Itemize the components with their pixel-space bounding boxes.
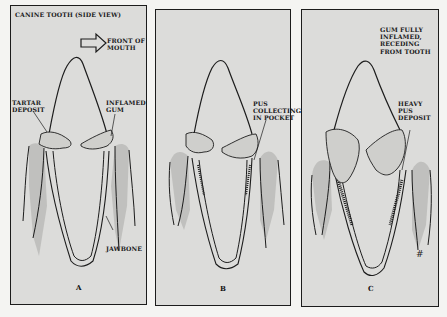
tooth-diagram-b bbox=[156, 10, 292, 307]
panel-c: # GUM FULLY INFLAMED, RECEDING FROM TOOT… bbox=[301, 9, 439, 307]
figure-title: CANINE TOOTH (SIDE VIEW) bbox=[15, 11, 121, 18]
jawbone-label: JAWBONE bbox=[106, 245, 142, 252]
panel-letter-a: A bbox=[76, 283, 81, 292]
gum-fully-inflamed-label: GUM FULLY INFLAMED, RECEDING FROM TOOTH bbox=[380, 26, 431, 55]
panel-a: CANINE TOOTH (SIDE VIEW) FRONT OF MOUTH … bbox=[10, 5, 147, 305]
heavy-pus-deposit-label: HEAVY PUS DEPOSIT bbox=[398, 100, 431, 122]
inflamed-gum-label: INFLAMED GUM bbox=[106, 99, 146, 113]
panel-letter-b: B bbox=[220, 284, 226, 293]
svg-text:#: # bbox=[416, 249, 424, 259]
pus-collecting-label: PUS COLLECTING IN POCKET bbox=[253, 100, 301, 122]
arrow-right-outline-icon bbox=[81, 34, 106, 52]
front-of-mouth-label: FRONT OF MOUTH bbox=[107, 37, 145, 51]
panel-b: PUS COLLECTING IN POCKET B bbox=[155, 9, 291, 306]
panel-letter-c: C bbox=[368, 284, 374, 293]
tartar-deposit-label: TARTAR DEPOSIT bbox=[12, 99, 45, 113]
